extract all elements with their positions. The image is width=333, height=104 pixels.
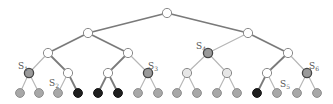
- tree-node-gray: [154, 89, 163, 98]
- tree-node-white: [103, 68, 112, 77]
- tree-node-black: [94, 89, 103, 98]
- tree-edge-light: [208, 33, 248, 53]
- tree-node-gray: [313, 89, 322, 98]
- tree-edge-strong: [88, 13, 167, 33]
- label-s5: S5: [280, 79, 290, 90]
- tree-node-gray: [173, 89, 182, 98]
- tree-node-white: [123, 48, 132, 57]
- tree-node-gray: [16, 89, 25, 98]
- tree-node-gray: [134, 89, 143, 98]
- tree-node-white: [162, 8, 171, 17]
- tree-node-white: [63, 68, 72, 77]
- tree-node-pale: [222, 68, 231, 77]
- tree-node-gray: [193, 89, 202, 98]
- tree-node-gray: [213, 89, 222, 98]
- tree-node-gray: [273, 89, 282, 98]
- tree-node-white: [83, 28, 92, 37]
- tree-node-white: [243, 28, 252, 37]
- tree-edges: [20, 13, 317, 93]
- tree-node-gray: [293, 89, 302, 98]
- tree-edge-strong: [248, 33, 288, 53]
- tree-node-gray: [35, 89, 44, 98]
- tree-node-pale: [182, 68, 191, 77]
- tree-node-gray: [233, 89, 242, 98]
- tree-node-white: [43, 48, 52, 57]
- label-s4: S4: [196, 41, 206, 52]
- label-s1: S1: [18, 61, 28, 72]
- tree-node-white: [262, 68, 271, 77]
- tree-node-white: [283, 48, 292, 57]
- tree-node-black: [114, 89, 123, 98]
- label-s3: S3: [148, 61, 158, 72]
- label-s2: S2: [49, 78, 59, 89]
- tree-edge-strong: [167, 13, 248, 33]
- tree-node-black: [74, 89, 83, 98]
- tree-node-gray: [54, 89, 63, 98]
- tree-edge-strong: [88, 33, 128, 53]
- tree-nodes: [16, 8, 322, 97]
- tree-edge-strong: [48, 33, 88, 53]
- tree-diagram: S1S2S3S4S5S6: [0, 0, 333, 104]
- tree-node-black: [253, 89, 262, 98]
- label-s6: S6: [309, 61, 319, 72]
